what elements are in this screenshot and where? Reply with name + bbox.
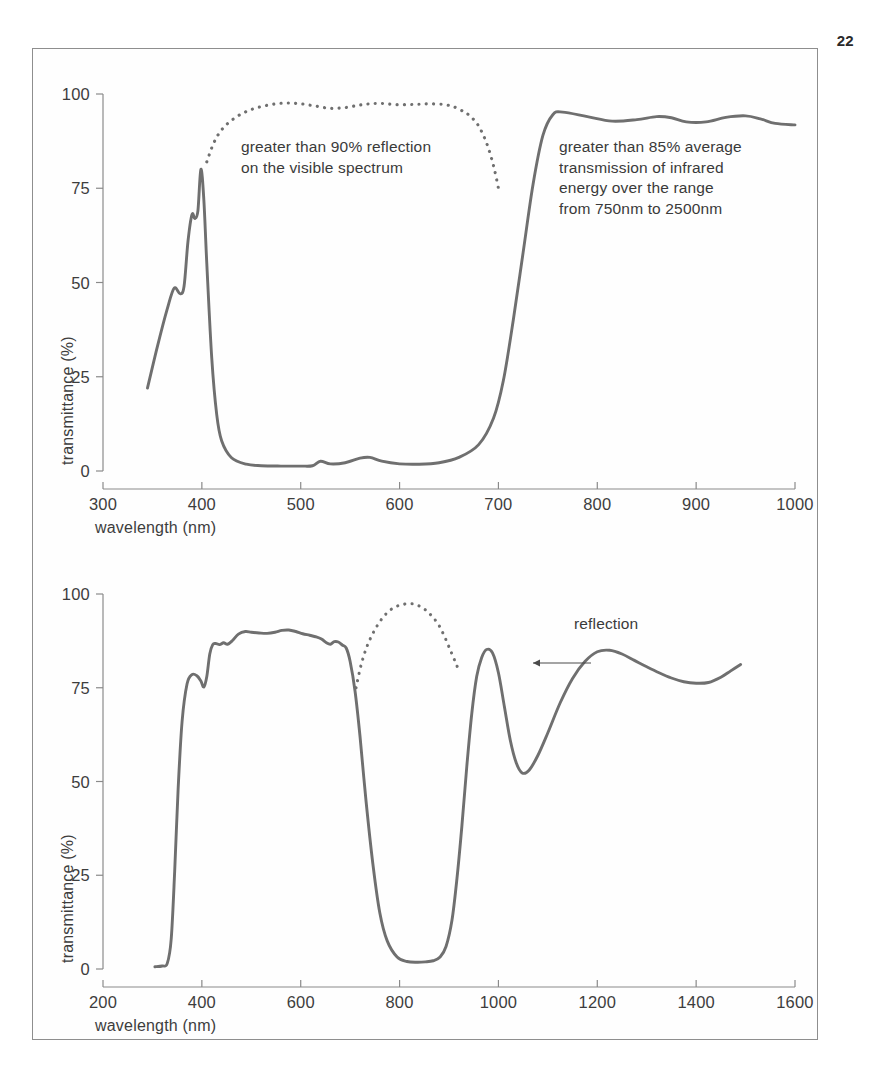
- y-axis-title-bottom: transmittance (%): [59, 834, 77, 963]
- xtick-label-bottom-1200: 1200: [579, 993, 617, 1012]
- figure-frame: 02550751003004005006007008009001000wavel…: [32, 48, 818, 1040]
- xtick-label-bottom-400: 400: [188, 993, 216, 1012]
- xtick-label-bottom-200: 200: [89, 993, 117, 1012]
- xtick-label-bottom-1600: 1600: [776, 993, 814, 1012]
- xtick-label-top-600: 600: [385, 495, 413, 514]
- xtick-label-top-800: 800: [583, 495, 611, 514]
- xtick-label-top-300: 300: [89, 495, 117, 514]
- chart-top-plot: [33, 49, 819, 549]
- ytick-label-bottom-0: 0: [81, 960, 90, 979]
- xtick-label-top-400: 400: [188, 495, 216, 514]
- xtick-label-bottom-1400: 1400: [677, 993, 715, 1012]
- page-number: 22: [837, 32, 854, 49]
- chart-bottom-axes: [96, 594, 795, 987]
- xtick-label-bottom-800: 800: [385, 993, 413, 1012]
- xtick-label-top-700: 700: [484, 495, 512, 514]
- ytick-label-top-100: 100: [62, 85, 90, 104]
- xtick-label-top-1000: 1000: [776, 495, 814, 514]
- ytick-label-bottom-100: 100: [62, 585, 90, 604]
- ytick-label-top-75: 75: [71, 179, 90, 198]
- xtick-label-bottom-600: 600: [287, 993, 315, 1012]
- x-axis-title-bottom: wavelength (nm): [95, 1017, 216, 1035]
- chart-bottom: 02550751002004006008001000120014001600wa…: [33, 549, 819, 1041]
- annotation-reflection-callout: reflection: [574, 615, 638, 633]
- y-axis-title-top: transmittance (%): [59, 336, 77, 465]
- series-bottom-reflection: [356, 604, 459, 688]
- series-bottom-transmittance: [155, 630, 741, 967]
- ytick-label-top-50: 50: [71, 273, 90, 292]
- ytick-label-bottom-50: 50: [71, 772, 90, 791]
- chart-bottom-series: [155, 604, 741, 967]
- ytick-label-bottom-75: 75: [71, 678, 90, 697]
- xtick-label-top-500: 500: [287, 495, 315, 514]
- annotation-reflection-note: greater than 90% reflection on the visib…: [241, 137, 431, 178]
- chart-top: 02550751003004005006007008009001000wavel…: [33, 49, 819, 549]
- xtick-label-top-900: 900: [682, 495, 710, 514]
- annotation-transmission-note: greater than 85% average transmission of…: [559, 137, 742, 219]
- chart-bottom-plot: [33, 549, 819, 1041]
- ytick-label-top-0: 0: [81, 462, 90, 481]
- xtick-label-bottom-1000: 1000: [480, 993, 518, 1012]
- x-axis-title-top: wavelength (nm): [95, 519, 216, 537]
